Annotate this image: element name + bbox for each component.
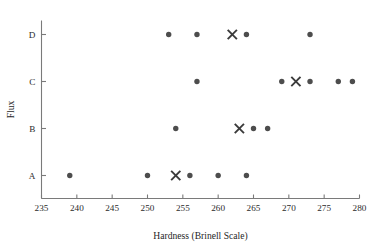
x-tick-label-270: 270 — [282, 203, 296, 213]
y-tick-label-D: D — [29, 30, 36, 40]
data-point — [166, 32, 171, 37]
x-tick-label-245: 245 — [105, 203, 119, 213]
data-point — [350, 79, 355, 84]
x-tick-label-265: 265 — [247, 203, 261, 213]
data-point — [187, 173, 192, 178]
data-point — [307, 32, 312, 37]
data-point — [145, 173, 150, 178]
scatter-plot-figure: 235240245250255260265270275280ABCDHardne… — [0, 0, 379, 248]
y-axis-title: Flux — [5, 101, 16, 119]
x-tick-label-275: 275 — [317, 203, 331, 213]
x-tick-label-240: 240 — [70, 203, 84, 213]
x-tick-label-255: 255 — [176, 203, 190, 213]
x-tick-label-235: 235 — [35, 203, 49, 213]
data-point — [67, 173, 72, 178]
data-point — [251, 126, 256, 131]
data-point — [194, 79, 199, 84]
data-point — [279, 79, 284, 84]
data-point — [244, 173, 249, 178]
plot-canvas: 235240245250255260265270275280ABCDHardne… — [0, 0, 379, 248]
x-tick-label-260: 260 — [211, 203, 225, 213]
y-tick-label-A: A — [29, 171, 36, 181]
data-point — [244, 32, 249, 37]
x-axis-title: Hardness (Brinell Scale) — [153, 230, 247, 242]
x-tick-label-280: 280 — [353, 203, 367, 213]
data-point — [173, 126, 178, 131]
y-tick-label-B: B — [29, 124, 35, 134]
data-point — [307, 79, 312, 84]
y-tick-label-C: C — [29, 77, 35, 87]
data-point — [194, 32, 199, 37]
data-point — [215, 173, 220, 178]
x-tick-label-250: 250 — [141, 203, 155, 213]
data-point — [265, 126, 270, 131]
data-point — [336, 79, 341, 84]
